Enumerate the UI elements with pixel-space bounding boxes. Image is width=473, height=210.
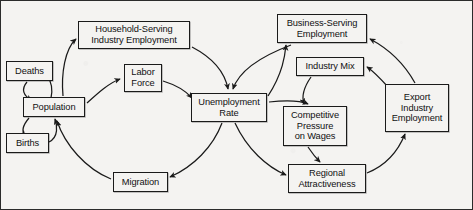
- node-label: Household-Serving Industry Employment: [91, 24, 176, 45]
- edge-labor-force-to-unemployment-rate: [163, 81, 192, 98]
- edge-unemployment-rate-to-competitive-pressure: [269, 101, 308, 104]
- node-label: Unemployment Rate: [198, 97, 259, 118]
- node-births[interactable]: Births: [6, 133, 49, 153]
- edge-regional-to-export-industry-employment: [367, 134, 405, 173]
- node-unemployment-rate[interactable]: Unemployment Rate: [191, 93, 267, 122]
- node-competitive-pressure-on-wages[interactable]: Competitive Pressure on Wages: [283, 106, 347, 146]
- edge-births-to-population: [49, 119, 57, 142]
- edge-competitive-pressure-to-regional: [308, 147, 320, 162]
- edge-industry-mix-to-competitive-pressure: [303, 77, 311, 104]
- node-label: Competitive Pressure on Wages: [291, 110, 339, 142]
- node-label: Migration: [122, 177, 159, 188]
- node-label: Births: [16, 138, 39, 149]
- node-population[interactable]: Population: [23, 97, 85, 117]
- node-labor-force[interactable]: Labor Force: [124, 64, 162, 92]
- node-export-industry-employment[interactable]: Export Industry Employment: [385, 84, 449, 132]
- node-label: Export Industry Employment: [392, 92, 443, 124]
- edge-household-to-unemployment-rate: [192, 47, 228, 89]
- edge-unemployment-rate-to-business-serving: [268, 45, 286, 96]
- node-industry-mix[interactable]: Industry Mix: [296, 57, 364, 76]
- node-label: Business-Serving Employment: [287, 18, 358, 39]
- node-label: Deaths: [15, 66, 44, 77]
- edge-unemployment-rate-to-regional-attractiveness: [235, 123, 286, 175]
- node-household-serving-industry-employment[interactable]: Household-Serving Industry Employment: [78, 21, 190, 49]
- edge-unemployment-rate-to-migration: [170, 123, 222, 177]
- node-deaths[interactable]: Deaths: [6, 61, 53, 81]
- node-label: Regional Attractiveness: [299, 168, 356, 189]
- edge-migration-to-population: [57, 121, 111, 179]
- node-label: Population: [33, 102, 76, 113]
- edge-export-to-business-serving-employment: [370, 39, 415, 83]
- node-migration[interactable]: Migration: [113, 172, 168, 192]
- node-label: Industry Mix: [306, 61, 355, 72]
- node-label: Labor Force: [131, 67, 154, 88]
- edge-population-to-labor-force: [87, 79, 120, 103]
- edge-population-to-household-serving-employment: [63, 39, 76, 96]
- node-business-serving-employment[interactable]: Business-Serving Employment: [277, 14, 367, 43]
- node-regional-attractiveness[interactable]: Regional Attractiveness: [288, 164, 366, 193]
- causal-loop-diagram: Deaths Births Population Household-Servi…: [0, 0, 473, 210]
